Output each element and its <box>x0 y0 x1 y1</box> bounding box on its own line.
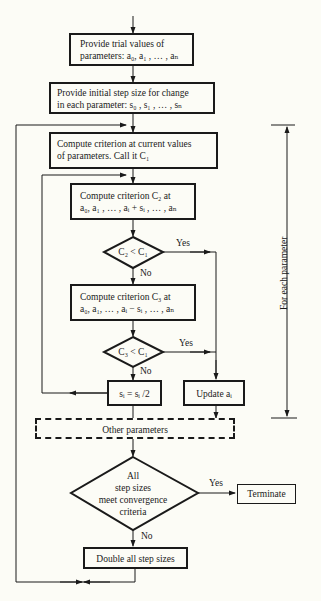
trial-values-box: Provide trial values of parameters: a₀, … <box>69 33 194 66</box>
double-steps-box: Double all step sizes <box>83 547 188 569</box>
compute-c2-line1: Compute criterion C₂ at <box>80 190 188 202</box>
terminate-box: Terminate <box>237 484 296 504</box>
decision-c3-label: C₃ < C₁ <box>108 346 158 358</box>
compute-c2-line2: a₀, a₁ , … , aᵢ + sᵢ , … , aₙ <box>80 202 188 214</box>
compute-c1-box: Compute criterion at current values of p… <box>49 132 218 169</box>
other-parameters-box: Other parameters <box>35 418 235 439</box>
converged-line2: step sizes <box>88 482 178 494</box>
trial-values-line2: parameters: a₀, a₁ , … , aₙ <box>80 50 186 62</box>
initial-step-box: Provide initial step size for change in … <box>49 82 215 114</box>
c2-yes-label: Yes <box>176 238 190 248</box>
c3-yes-label: Yes <box>179 338 193 348</box>
converged-line3: meet convergence <box>88 494 178 506</box>
compute-c2-box: Compute criterion C₂ at a₀, a₁ , … , aᵢ … <box>70 183 196 220</box>
decision-converged-label: All step sizes meet convergence criteria <box>88 470 178 518</box>
compute-c3-box: Compute criterion C₃ at a₀, a₁, … , aᵢ −… <box>70 284 196 321</box>
c3-no-label: No <box>140 366 152 376</box>
converged-line1: All <box>88 470 178 482</box>
compute-c1-line1: Compute criterion at current values <box>57 138 210 150</box>
converged-line4: criteria <box>88 506 178 518</box>
update-box: Update aᵢ <box>183 380 245 406</box>
initial-step-line2: in each parameter: s₀ , s₁ , … , sₙ <box>57 99 207 111</box>
c2-no-label: No <box>140 268 152 278</box>
compute-c1-line2: of parameters. Call it C₁ <box>57 150 210 162</box>
compute-c3-line2: a₀, a₁, … , aᵢ − sᵢ , … , aₙ <box>80 303 188 315</box>
halve-step-box: sᵢ = sᵢ /2 <box>107 380 162 406</box>
decision-c2-label: C₂ < C₁ <box>108 246 158 258</box>
initial-step-line1: Provide initial step size for change <box>57 87 207 99</box>
converged-yes-label: Yes <box>209 478 223 488</box>
converged-no-label: No <box>141 531 153 541</box>
for-each-parameter-label: For each parameter <box>279 237 289 310</box>
compute-c3-line1: Compute criterion C₃ at <box>80 291 188 303</box>
trial-values-line1: Provide trial values of <box>80 38 186 50</box>
